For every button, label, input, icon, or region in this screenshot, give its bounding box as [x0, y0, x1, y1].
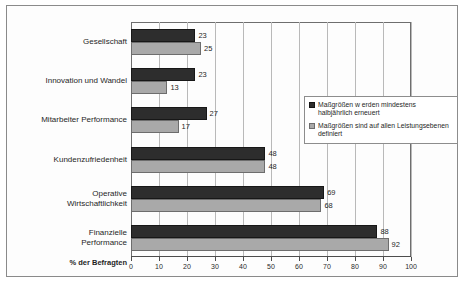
category-label: Finanzielle Performance	[81, 228, 127, 248]
legend-item-0: Maßgrößen w erden mindestens halbjährlic…	[309, 101, 454, 118]
x-axis-tick-label: 60	[287, 263, 311, 270]
gridline	[187, 22, 188, 257]
bar	[131, 186, 324, 199]
legend-label-1-line2: definiert	[318, 130, 342, 137]
x-axis-tick	[411, 257, 412, 261]
bar-value-label: 23	[198, 29, 206, 42]
chart-figure: GesellschaftInnovation und WandelMitarbe…	[6, 5, 458, 277]
x-axis-tick-label: 10	[147, 263, 171, 270]
gridline	[215, 22, 216, 257]
bar-value-label: 69	[327, 186, 335, 199]
bar-value-label: 13	[170, 81, 178, 94]
legend-label-0: Maßgrößen w erden mindestens halbjährlic…	[318, 101, 416, 118]
legend-swatch-dark-icon	[309, 102, 315, 108]
bar-value-label: 23	[198, 68, 206, 81]
x-axis-tick	[327, 257, 328, 261]
bar	[131, 107, 207, 120]
x-axis-tick	[215, 257, 216, 261]
bar	[131, 225, 377, 238]
x-axis-tick	[131, 257, 132, 261]
x-axis-tick	[271, 257, 272, 261]
legend-label-0-line1: Maßgrößen w erden mindestens	[318, 101, 416, 108]
bar-value-label: 25	[204, 42, 212, 55]
chart-legend: Maßgrößen w erden mindestens halbjährlic…	[304, 96, 458, 144]
gridline	[243, 22, 244, 257]
legend-item-1: Maßgrößen sind auf allen Leistungsebenen…	[309, 122, 454, 139]
category-label: Kundenzufriedenheit	[54, 155, 127, 165]
x-axis-tick-label: 100	[399, 263, 423, 270]
bar-value-label: 68	[324, 199, 332, 212]
bar-value-label: 17	[182, 120, 190, 133]
x-axis-tick	[159, 257, 160, 261]
x-axis-tick-label: 80	[343, 263, 367, 270]
bar	[131, 81, 167, 94]
bar	[131, 199, 321, 212]
category-label: Operative Wirtschaftlichkeit	[67, 189, 127, 209]
legend-swatch-light-icon	[309, 123, 315, 129]
x-axis-tick-label: 20	[175, 263, 199, 270]
gridline	[299, 22, 300, 257]
x-axis-tick	[299, 257, 300, 261]
category-axis-labels: GesellschaftInnovation und WandelMitarbe…	[15, 22, 127, 257]
bar-value-label: 92	[392, 238, 400, 251]
legend-label-0-line2: halbjährlich erneuert	[318, 109, 380, 116]
bar	[131, 147, 265, 160]
bar	[131, 160, 265, 173]
bar-value-label: 48	[268, 160, 276, 173]
x-axis-tick-label: 40	[231, 263, 255, 270]
x-axis-tick-label: 70	[315, 263, 339, 270]
bar-value-label: 48	[268, 147, 276, 160]
bar-value-label: 27	[210, 107, 218, 120]
category-label: Innovation und Wandel	[45, 76, 127, 86]
category-label: Gesellschaft	[83, 37, 127, 47]
gridline	[271, 22, 272, 257]
legend-label-1-line1: Maßgrößen sind auf allen Leistungsebenen	[318, 122, 449, 129]
legend-label-1: Maßgrößen sind auf allen Leistungsebenen…	[318, 122, 449, 139]
bar-value-label: 88	[380, 225, 388, 238]
bar	[131, 120, 179, 133]
x-axis-tick	[243, 257, 244, 261]
x-axis-tick	[355, 257, 356, 261]
x-axis-title: % der Befragten	[15, 258, 127, 267]
x-axis-tick	[187, 257, 188, 261]
bar	[131, 42, 201, 55]
x-axis-tick-label: 0	[119, 263, 143, 270]
x-axis-tick-label: 90	[371, 263, 395, 270]
bar	[131, 68, 195, 81]
x-axis-tick-label: 50	[259, 263, 283, 270]
x-axis-tick-label: 30	[203, 263, 227, 270]
x-axis-tick	[383, 257, 384, 261]
category-label: Mitarbeiter Performance	[41, 115, 127, 125]
bar	[131, 238, 389, 251]
gridline	[159, 22, 160, 257]
bar	[131, 29, 195, 42]
